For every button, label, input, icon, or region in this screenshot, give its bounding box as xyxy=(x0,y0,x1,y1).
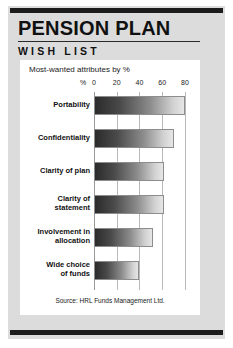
bar-rows: PortabilityConfidentialityClarity of pla… xyxy=(94,92,194,290)
top-rule xyxy=(10,8,223,13)
bar-category-label: Portability xyxy=(0,100,90,109)
axis-unit-label: % xyxy=(80,79,86,86)
bar xyxy=(94,195,164,214)
title-divider xyxy=(18,41,200,42)
bar-category-label: Clarity of plan xyxy=(0,166,90,175)
x-tick-label: 0 xyxy=(92,79,96,86)
bar-row: Clarity ofstatement xyxy=(94,191,194,224)
bar xyxy=(94,162,164,181)
plot-area: PortabilityConfidentialityClarity of pla… xyxy=(94,92,194,290)
x-tick-label: 40 xyxy=(136,79,144,86)
screenshot-root: PENSION PLAN WISH LIST Most-wanted attri… xyxy=(0,0,233,348)
chart-source: Source: HRL Funds Management Ltd. xyxy=(20,297,200,304)
bar-row: Confidentiality xyxy=(94,125,194,158)
x-tick-label: 80 xyxy=(181,79,189,86)
bottom-rule xyxy=(10,330,223,335)
x-tick-label: 60 xyxy=(158,79,166,86)
header: PENSION PLAN WISH LIST xyxy=(18,17,218,57)
bar xyxy=(94,129,174,148)
bar xyxy=(94,228,153,247)
x-tick-label: 20 xyxy=(113,79,121,86)
chart-card: Most-wanted attributes by % % 020406080 … xyxy=(20,60,200,315)
bar-row: Clarity of plan xyxy=(94,158,194,191)
bar-row: Involvement inallocation xyxy=(94,224,194,257)
bar-category-label: Confidentiality xyxy=(0,133,90,142)
bar-row: Portability xyxy=(94,92,194,125)
page-subtitle: WISH LIST xyxy=(18,45,218,57)
bar-row: Wide choiceof funds xyxy=(94,257,194,290)
page-title: PENSION PLAN xyxy=(18,17,218,39)
bar xyxy=(94,261,139,280)
chart-title: Most-wanted attributes by % xyxy=(29,65,130,74)
bar xyxy=(94,96,185,115)
x-axis-labels: % 020406080 xyxy=(80,79,198,91)
bar-category-label: Involvement inallocation xyxy=(0,227,90,245)
bar-category-label: Clarity ofstatement xyxy=(0,194,90,212)
bar-category-label: Wide choiceof funds xyxy=(0,260,90,278)
